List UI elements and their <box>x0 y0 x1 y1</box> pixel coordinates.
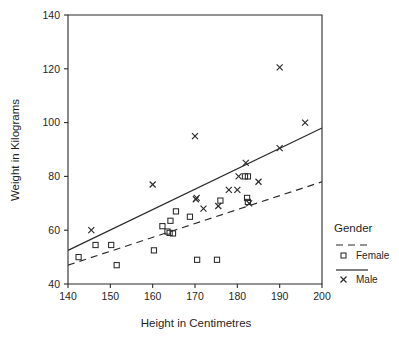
x-tick-label: 170 <box>186 290 204 302</box>
point-marker-square <box>214 257 219 262</box>
y-tick-label: 80 <box>48 170 60 182</box>
point-marker-cross <box>150 181 156 187</box>
point-marker-square <box>160 224 165 229</box>
legend-label-male: Male <box>356 274 378 285</box>
point-marker-cross <box>234 187 240 193</box>
y-tick-label: 100 <box>42 116 60 128</box>
point-marker-cross <box>302 120 308 126</box>
legend-label-female: Female <box>356 250 390 261</box>
point-marker-square <box>195 257 200 262</box>
y-tick-label: 140 <box>42 9 60 21</box>
plot-svg: 406080100120140 140150160170180190200 We… <box>0 0 399 338</box>
y-tick-label: 40 <box>48 278 60 290</box>
legend-female-marker <box>341 253 346 258</box>
y-tick-label: 60 <box>48 224 60 236</box>
axis-frame <box>68 15 322 284</box>
regression-line-male <box>68 128 322 250</box>
x-tick-label: 150 <box>102 290 120 302</box>
scatter-plot-figure: 406080100120140 140150160170180190200 We… <box>0 0 399 338</box>
point-marker-cross <box>256 179 262 185</box>
y-axis-ticks: 406080100120140 <box>42 9 68 290</box>
x-axis-title: Height in Centimetres <box>141 317 252 329</box>
data-points <box>76 64 308 267</box>
series-male <box>88 64 308 233</box>
point-marker-square <box>168 218 173 223</box>
point-marker-cross <box>192 133 198 139</box>
legend: Gender Female Male <box>334 222 390 285</box>
point-marker-cross <box>246 200 252 206</box>
point-marker-cross <box>215 203 221 209</box>
x-tick-label: 200 <box>313 290 331 302</box>
x-tick-label: 190 <box>271 290 289 302</box>
point-marker-square <box>187 214 192 219</box>
point-marker-square <box>109 242 114 247</box>
point-marker-square <box>93 242 98 247</box>
x-tick-label: 160 <box>144 290 162 302</box>
point-marker-square <box>173 209 178 214</box>
y-tick-label: 120 <box>42 63 60 75</box>
legend-male-marker <box>341 277 347 283</box>
y-axis-title: Weight in Kilograms <box>9 99 21 201</box>
point-marker-cross <box>277 64 283 70</box>
point-marker-cross <box>236 173 242 179</box>
point-marker-cross <box>226 187 232 193</box>
point-marker-cross <box>200 206 206 212</box>
x-tick-label: 180 <box>229 290 247 302</box>
axes <box>68 15 322 284</box>
point-marker-square <box>76 255 81 260</box>
x-tick-label: 140 <box>59 290 77 302</box>
point-marker-cross <box>88 227 94 233</box>
point-marker-square <box>151 248 156 253</box>
point-marker-square <box>218 198 223 203</box>
regression-line-female <box>68 182 322 265</box>
legend-title: Gender <box>334 222 373 234</box>
point-marker-square <box>114 263 119 268</box>
point-marker-cross <box>277 145 283 151</box>
x-axis-ticks: 140150160170180190200 <box>59 284 331 302</box>
